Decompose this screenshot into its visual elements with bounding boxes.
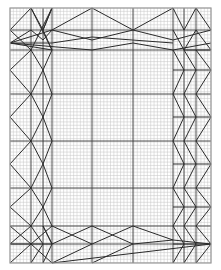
crease-line	[196, 50, 211, 70]
crease-line	[43, 94, 52, 117]
crease-line	[43, 164, 52, 188]
crease-line	[92, 43, 133, 50]
minor-grid	[10, 8, 211, 263]
crease-line	[43, 244, 52, 263]
crease-line	[196, 188, 211, 207]
crease-line	[173, 240, 211, 244]
crease-line	[196, 244, 211, 263]
crease-line	[173, 117, 184, 141]
crease-line	[196, 94, 211, 117]
crease-line	[43, 30, 52, 50]
crease-line	[43, 50, 52, 70]
crease-line	[133, 240, 173, 244]
crease-line	[43, 207, 52, 226]
crease-line	[173, 188, 184, 207]
crease-line	[196, 226, 211, 244]
crease-pattern-canvas	[0, 0, 221, 270]
crease-line	[173, 94, 184, 117]
crease-line	[173, 70, 184, 94]
crease-line	[43, 141, 52, 164]
crease-line	[173, 244, 184, 263]
crease-line	[92, 244, 133, 263]
crease-line	[196, 70, 211, 94]
crease-line	[43, 188, 52, 207]
crease-line	[196, 207, 211, 226]
crease-line	[43, 117, 52, 141]
crease-line	[196, 30, 211, 50]
crease-line	[173, 141, 184, 164]
crease-line	[173, 207, 184, 226]
crease-line	[196, 117, 211, 141]
crease-line	[133, 43, 173, 50]
crease-line	[173, 164, 184, 188]
crease-line	[133, 226, 173, 240]
crease-line	[52, 244, 211, 263]
crease-line	[196, 141, 211, 164]
crease-line	[196, 164, 211, 188]
crease-line	[173, 43, 211, 50]
crease-line	[43, 226, 52, 244]
crease-line	[173, 226, 184, 244]
crease-line	[173, 50, 184, 70]
crease-line	[43, 70, 52, 94]
